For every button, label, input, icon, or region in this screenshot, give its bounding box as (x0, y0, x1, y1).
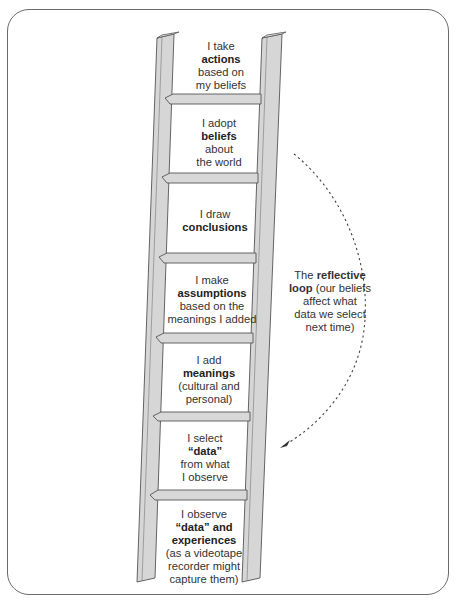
step-text: recorder might (158, 560, 250, 573)
step-select-data: I select “data” from what I observe (162, 432, 248, 484)
step-text: I observe (158, 508, 250, 521)
step-text: capture them) (158, 573, 250, 586)
loop-text: next time) (282, 321, 378, 334)
step-text: meanings I added (164, 313, 260, 326)
step-text: I take (186, 40, 256, 53)
loop-keyword: loop (289, 282, 313, 294)
step-text: I make (164, 274, 260, 287)
step-meanings: I add meanings (cultural and personal) (164, 354, 254, 406)
step-keyword: “data” and (175, 521, 232, 533)
step-text: I add (164, 354, 254, 367)
step-text: about (184, 143, 254, 156)
step-text: (as a videotape (158, 547, 250, 560)
step-conclusions: I draw conclusions (170, 208, 260, 234)
step-text: personal) (164, 393, 254, 406)
step-keyword: “data” (188, 445, 222, 457)
loop-text: The (294, 269, 313, 281)
step-keyword: actions (201, 53, 240, 65)
step-keyword: assumptions (177, 287, 246, 299)
step-text: (cultural and (164, 380, 254, 393)
loop-text: data we select (282, 308, 378, 321)
step-keyword: meanings (183, 367, 235, 379)
step-text: based on the (164, 300, 260, 313)
step-beliefs: I adopt beliefs about the world (184, 117, 254, 169)
step-keyword: beliefs (201, 130, 236, 142)
step-text: I adopt (184, 117, 254, 130)
loop-keyword: reflective (317, 269, 366, 281)
step-keyword: experiences (172, 534, 237, 546)
arrowhead-icon (280, 440, 290, 448)
step-text: based on (186, 66, 256, 79)
step-actions: I take actions based on my beliefs (186, 40, 256, 92)
step-text: my beliefs (186, 79, 256, 92)
step-keyword: conclusions (182, 221, 247, 233)
reflective-loop-label: The reflective loop (our beliefs affect … (282, 269, 378, 334)
step-text: I draw (170, 208, 260, 221)
step-observe: I observe “data” and experiences (as a v… (158, 508, 250, 586)
loop-text: affect what (282, 295, 378, 308)
step-text: the world (184, 156, 254, 169)
step-text: I observe (162, 471, 248, 484)
step-text: I select (162, 432, 248, 445)
loop-text: (our beliefs (316, 282, 371, 294)
step-text: from what (162, 458, 248, 471)
step-assumptions: I make assumptions based on the meanings… (164, 274, 260, 326)
